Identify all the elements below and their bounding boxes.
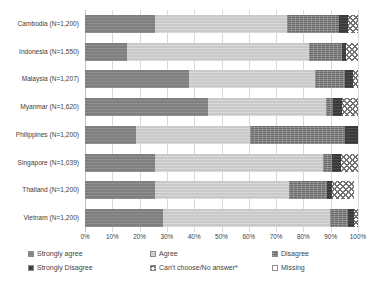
bar-segment-agree <box>163 209 330 227</box>
bar-rows <box>85 10 358 232</box>
legend-item-strongly-agree[interactable]: Strongly agree <box>28 250 83 257</box>
category-label: Indonesia (N=1,550) <box>0 48 79 56</box>
bar-row <box>85 126 358 144</box>
legend-label: Missing <box>281 264 305 271</box>
value-axis-labels: 0%10%20%30%40%50%60%70%80%90%100% <box>85 232 358 244</box>
legend-item-missing[interactable]: Missing <box>272 264 305 271</box>
bar-row <box>85 70 358 88</box>
bar-segment-agree <box>155 181 289 199</box>
bar-segment-strongly-agree <box>85 43 127 61</box>
bar-segment-strongly-agree <box>85 15 155 33</box>
bar-segment-disagree <box>326 98 333 116</box>
bar-segment-disagree <box>309 43 342 61</box>
value-tick-label: 70% <box>270 233 283 240</box>
bar-segment-disagree <box>287 15 339 33</box>
value-tick-label: 0% <box>80 233 89 240</box>
legend-swatch-missing-icon <box>272 265 278 271</box>
legend-label: Disagree <box>281 250 309 257</box>
bar-segment-strongly-disagree <box>339 15 348 33</box>
legend-label: Strongly agree <box>37 250 83 257</box>
category-label: Malaysia (N=1,207) <box>0 75 79 83</box>
value-tick-label: 80% <box>297 233 310 240</box>
legend-swatch-disagree-icon <box>272 251 278 257</box>
category-label: Vietnam (N=1,200) <box>0 214 79 222</box>
bar-segment-cant-choose <box>341 154 358 172</box>
legend-item-cant-choose[interactable]: Can't choose/No answer* <box>150 264 238 271</box>
bar-row <box>85 154 358 172</box>
bar-segment-agree <box>208 98 326 116</box>
legend-label: Strongly Disagree <box>37 264 93 271</box>
bar-segment-agree <box>189 70 315 88</box>
bar-segment-disagree <box>323 154 332 172</box>
bar-segment-missing <box>354 181 358 199</box>
bar-segment-strongly-disagree <box>332 154 341 172</box>
bar-row <box>85 98 358 116</box>
chart-legend: Strongly agreeAgreeDisagreeStrongly Disa… <box>28 250 358 280</box>
bar-segment-strongly-agree <box>85 98 208 116</box>
bar-segment-strongly-disagree <box>333 98 342 116</box>
bar-segment-disagree <box>315 70 345 88</box>
legend-swatch-strongly-disagree-icon <box>28 265 34 271</box>
legend-swatch-cant-choose-icon <box>150 265 156 271</box>
gridline <box>358 10 359 232</box>
stacked-bar-chart: Cambodia (N=1,200)Indonesia (N=1,550)Mal… <box>0 0 381 287</box>
value-tick-label: 40% <box>188 233 201 240</box>
bar-segment-disagree <box>250 126 345 144</box>
bar-segment-strongly-agree <box>85 154 155 172</box>
category-label: Philippines (N=1,200) <box>0 131 79 139</box>
bar-segment-agree <box>136 126 250 144</box>
category-label: Thailand (N=1,200) <box>0 186 79 194</box>
category-axis-labels: Cambodia (N=1,200)Indonesia (N=1,550)Mal… <box>0 10 82 232</box>
bar-segment-disagree <box>289 181 327 199</box>
bar-segment-cant-choose <box>348 15 358 33</box>
plot-area <box>85 10 358 232</box>
bar-segment-agree <box>127 43 309 61</box>
bar-segment-cant-choose <box>346 43 358 61</box>
legend-label: Can't choose/No answer* <box>159 264 238 271</box>
bar-segment-cant-choose <box>353 70 358 88</box>
bar-segment-strongly-agree <box>85 126 136 144</box>
bar-row <box>85 15 358 33</box>
legend-swatch-agree-icon <box>150 251 156 257</box>
value-tick-label: 20% <box>133 233 146 240</box>
bar-segment-cant-choose <box>354 209 358 227</box>
bar-row <box>85 43 358 61</box>
value-tick-label: 30% <box>160 233 173 240</box>
legend-label: Agree <box>159 250 178 257</box>
bar-segment-disagree <box>330 209 348 227</box>
bar-segment-agree <box>155 15 287 33</box>
legend-item-agree[interactable]: Agree <box>150 250 178 257</box>
bar-row <box>85 209 358 227</box>
bar-segment-cant-choose <box>332 181 354 199</box>
value-tick-label: 50% <box>215 233 228 240</box>
bar-segment-agree <box>155 154 323 172</box>
bar-segment-strongly-disagree <box>345 70 353 88</box>
legend-swatch-strongly-agree-icon <box>28 251 34 257</box>
bar-row <box>85 181 358 199</box>
value-tick-label: 100% <box>350 233 366 240</box>
bar-segment-strongly-agree <box>85 181 155 199</box>
value-tick-label: 90% <box>324 233 337 240</box>
bar-segment-strongly-agree <box>85 70 189 88</box>
bar-segment-cant-choose <box>342 98 358 116</box>
category-label: Cambodia (N=1,200) <box>0 20 79 28</box>
category-label: Singapore (N=1,039) <box>0 159 79 167</box>
bar-segment-strongly-disagree <box>345 126 358 144</box>
bar-segment-strongly-agree <box>85 209 163 227</box>
value-tick-label: 10% <box>106 233 119 240</box>
legend-item-disagree[interactable]: Disagree <box>272 250 309 257</box>
value-tick-label: 60% <box>242 233 255 240</box>
legend-item-strongly-disagree[interactable]: Strongly Disagree <box>28 264 93 271</box>
category-label: Myanmar (N=1,620) <box>0 103 79 111</box>
